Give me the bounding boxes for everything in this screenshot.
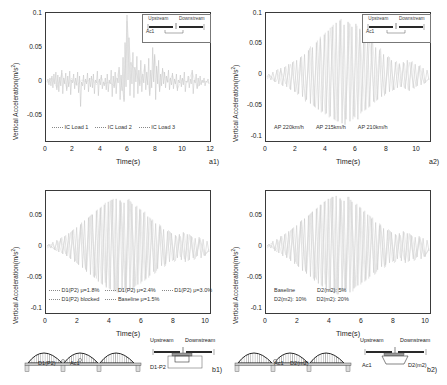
panel-a2-ytick-3: -0.05 bbox=[232, 101, 262, 108]
panel-a2-legend-item-2: AP 210km/h bbox=[358, 123, 388, 131]
panel-b2-legend-item-2: D2(m2): 10% bbox=[274, 295, 306, 303]
panel-a2-xtick-2: 4 bbox=[318, 145, 332, 152]
panel-a2-legend: AP 220km/h AP 215km/h AP 210km/h bbox=[274, 123, 388, 131]
panel-a1-xtick-6: 12 bbox=[203, 145, 217, 152]
panel-a2-xtick-3: 6 bbox=[348, 145, 362, 152]
panel-a2-legend-item-1: AP 215km/h bbox=[316, 123, 346, 131]
panel-a2-xtick-1: 2 bbox=[288, 145, 302, 152]
legend-line-icon bbox=[49, 299, 60, 300]
panel-b1-xtick-3: 6 bbox=[134, 317, 148, 324]
panel-b2-ytick-0: 0.05 bbox=[234, 211, 262, 218]
panel-b2-xtick-2: 4 bbox=[322, 317, 336, 324]
panel-b1-tag: b1) bbox=[212, 366, 222, 373]
panel-b2-ylabel: Vertical Acceleration(m/s2) bbox=[231, 247, 239, 324]
panel-b2-legend-item-3: D2(m2): 20% bbox=[316, 295, 348, 303]
panel-b2-section-damage-label: D2(m2) bbox=[408, 362, 427, 368]
panel-b2-ytick-1: 0 bbox=[238, 242, 262, 249]
panel-b2-xtick-4: 8 bbox=[386, 317, 400, 324]
panel-b2-damage-label: D2(m2) bbox=[290, 360, 309, 366]
panel-b1-legend-item-4: Baseline μ=1.5% bbox=[105, 295, 159, 303]
panel-b2-legend-row-1: Baseline D2(m2): 5% bbox=[274, 286, 349, 294]
panel-a1-ylabel: Vertical Acceleration(m/s2) bbox=[11, 63, 19, 140]
panel-a1-ytick-2: 0 bbox=[18, 77, 42, 84]
legend-line-icon bbox=[52, 127, 63, 128]
panel-b2-xtick-3: 6 bbox=[354, 317, 368, 324]
panel-b1-ytick-1: 0 bbox=[18, 242, 42, 249]
panel-b2-xtick-5: 10 bbox=[418, 317, 432, 324]
panel-b1-legend-row-2: D1(P2) blocked Baseline μ=1.5% bbox=[49, 295, 212, 303]
panel-a1-ytick-3: -0.05 bbox=[12, 111, 42, 118]
panel-b1-downstream-label: Downstream bbox=[185, 337, 215, 343]
panel-a1-legend: IC Load 1 IC Load 2 IC Load 3 bbox=[52, 123, 175, 131]
panel-a2-xtick-0: 0 bbox=[258, 145, 272, 152]
panel-a2: Vertical Acceleration(m/s2) 0.1 0.05 0 -… bbox=[224, 0, 447, 192]
panel-a2-ytick-1: 0.05 bbox=[234, 39, 262, 46]
panel-b2-section-sensor-label: Ac1 bbox=[362, 362, 372, 368]
panel-a2-ytick-4: -0.1 bbox=[234, 132, 262, 139]
panel-b2-legend-row-2: D2(m2): 10% D2(m2): 20% bbox=[274, 295, 349, 303]
panel-a1-ytick-0: 0.1 bbox=[18, 9, 42, 16]
panel-b1-legend-item-0: D1(P2) μ=1.8% bbox=[49, 286, 99, 294]
legend-line-icon bbox=[139, 127, 150, 128]
panel-a1-xtick-4: 8 bbox=[148, 145, 162, 152]
panel-a2-inset-sensor-label: Ac1 bbox=[366, 29, 374, 34]
panel-b1-section-drawing bbox=[150, 345, 224, 378]
panel-a1-inset-sensor-label: Ac1 bbox=[146, 29, 154, 34]
panel-b2-xtick-0: 0 bbox=[258, 317, 272, 324]
panel-a1-xtick-2: 4 bbox=[93, 145, 107, 152]
panel-b2-sensor-label: Ac1 bbox=[274, 360, 284, 366]
legend-line-icon bbox=[105, 290, 116, 291]
panel-a1-xtick-1: 2 bbox=[65, 145, 79, 152]
panel-a1-tag: a1) bbox=[209, 158, 219, 165]
panel-a1-xtick-0: 0 bbox=[38, 145, 52, 152]
panel-b1-xtick-2: 4 bbox=[102, 317, 116, 324]
panel-b2-ytick-2: -0.05 bbox=[232, 273, 262, 280]
panel-b2-tag: b2) bbox=[427, 366, 437, 373]
panel-b1-legend-item-2: D1(P2) μ=3.0% bbox=[162, 286, 212, 294]
panel-b2-xtick-1: 2 bbox=[290, 317, 304, 324]
panel-b1-xtick-4: 8 bbox=[166, 317, 180, 324]
panel-b2-bridge-schematic: Ac1 D2(m2) bbox=[232, 341, 354, 375]
panel-b1-section-label: D1-P2 bbox=[150, 364, 166, 370]
panel-a2-xtick-5: 10 bbox=[409, 145, 423, 152]
panel-b1-bridge-schematic: D1(P2) Ac1 bbox=[22, 341, 144, 375]
panel-b1-ytick-0: 0.05 bbox=[14, 211, 42, 218]
panel-a1-legend-item-1: IC Load 2 bbox=[95, 123, 131, 131]
panel-b2-ytick-3: -0.1 bbox=[234, 304, 262, 311]
panel-b2-legend-item-0: Baseline bbox=[274, 286, 295, 294]
panel-a2-legend-item-0: AP 220km/h bbox=[274, 123, 304, 131]
panel-b2: Vertical Acceleration(m/s2) 0.05 0 -0.05… bbox=[224, 190, 447, 385]
panel-a1-ytick-1: 0.05 bbox=[14, 43, 42, 50]
legend-line-icon bbox=[49, 290, 60, 291]
panel-a1-legend-item-0: IC Load 1 bbox=[52, 123, 88, 131]
panel-b1-upstream-label: Upstream bbox=[150, 337, 173, 343]
panel-b1-xtick-0: 0 bbox=[38, 317, 52, 324]
panel-b1-ylabel: Vertical Acceleration(m/s2) bbox=[11, 247, 19, 324]
panel-b1-legend: D1(P2) μ=1.8% D1(P2) μ=2.4% D1(P2) μ=3.0… bbox=[49, 286, 212, 303]
legend-line-icon bbox=[95, 127, 106, 128]
panel-a2-tag: a2) bbox=[429, 158, 439, 165]
panel-b2-legend-item-1: D2(m2): 5% bbox=[317, 286, 346, 294]
panel-a2-xlabel: Time(s) bbox=[318, 157, 378, 166]
panel-b1-xtick-1: 2 bbox=[70, 317, 84, 324]
panel-b2-downstream-label: Downstream bbox=[400, 337, 430, 343]
panel-a1-legend-item-2: IC Load 3 bbox=[139, 123, 175, 131]
panel-a2-ytick-2: 0 bbox=[238, 70, 262, 77]
panel-b2-legend: Baseline D2(m2): 5% D2(m2): 10% D2(m2): … bbox=[274, 286, 349, 303]
panel-b1-ytick-2: -0.05 bbox=[12, 273, 42, 280]
panel-a1-xlabel: Time(s) bbox=[98, 157, 158, 166]
panel-a1-inset: Upstream Downstream Ac1 bbox=[142, 14, 211, 43]
panel-b1-sensor-label: Ac1 bbox=[70, 360, 80, 366]
panel-a1-xtick-5: 10 bbox=[175, 145, 189, 152]
panel-b1-bridge-drawing bbox=[22, 341, 144, 375]
panel-b1-ytick-3: -0.1 bbox=[14, 304, 42, 311]
figure-root: Vertical Acceleration(m/s2) 0.1 0.05 0 -… bbox=[0, 0, 447, 385]
panel-a2-xtick-4: 8 bbox=[379, 145, 393, 152]
panel-b2-upstream-label: Upstream bbox=[360, 337, 383, 343]
panel-b2-section-drawing bbox=[360, 345, 444, 378]
panel-b1-xtick-5: 10 bbox=[198, 317, 212, 324]
panel-b1-damage-label: D1(P2) bbox=[38, 360, 56, 366]
panel-b2-bridge-drawing bbox=[232, 341, 354, 375]
panel-a1: Vertical Acceleration(m/s2) 0.1 0.05 0 -… bbox=[0, 0, 224, 192]
panel-b1: Vertical Acceleration(m/s2) 0.05 0 -0.05… bbox=[0, 190, 224, 385]
